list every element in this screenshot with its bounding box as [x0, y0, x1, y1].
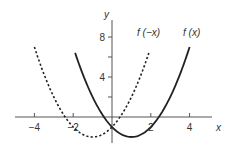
y-tick-label: 8 — [99, 32, 105, 43]
ticks: −4−22448 — [29, 32, 193, 133]
label-f-x: f (x) — [183, 27, 200, 38]
curve-f-neg-x — [34, 47, 148, 137]
x-tick-label: −4 — [29, 122, 41, 133]
curve-f-x — [75, 47, 189, 137]
y-axis-label: y — [103, 9, 110, 20]
y-tick-label: 4 — [99, 72, 105, 83]
chart: x y −4−22448 f (x)f (−x) — [0, 0, 235, 151]
x-tick-label: 4 — [187, 122, 193, 133]
label-f-neg-x: f (−x) — [137, 27, 160, 38]
curve-labels: f (x)f (−x) — [137, 27, 200, 38]
x-axis-label: x — [215, 122, 222, 133]
